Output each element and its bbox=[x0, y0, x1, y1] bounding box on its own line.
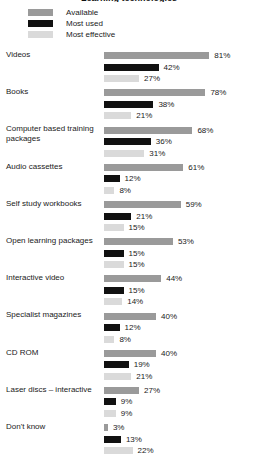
bar bbox=[104, 261, 124, 268]
legend-item-label: Available bbox=[66, 7, 98, 18]
bar-value-label: 8% bbox=[119, 335, 131, 344]
bar bbox=[104, 112, 131, 119]
bar bbox=[104, 447, 133, 454]
bar-value-label: 12% bbox=[125, 323, 141, 332]
bar-group: Self study workbooks59%21%15% bbox=[0, 197, 258, 234]
category-label: Books bbox=[0, 85, 104, 97]
bar-stack: 53%15%15% bbox=[104, 234, 258, 271]
legend-item-label: Most effective bbox=[66, 29, 115, 40]
bar bbox=[104, 75, 139, 82]
bar-value-label: 21% bbox=[136, 212, 152, 221]
bar-group: Videos81%42%27% bbox=[0, 48, 258, 85]
bar-row: 19% bbox=[104, 359, 258, 371]
bar-row: 44% bbox=[104, 273, 258, 285]
bar bbox=[104, 250, 124, 257]
bar bbox=[104, 373, 131, 380]
bar-group: Laser discs – interactive27%9%9% bbox=[0, 383, 258, 420]
bar-value-label: 15% bbox=[129, 223, 145, 232]
bar-stack: 3%13%22% bbox=[104, 420, 258, 457]
bar-stack: 40%19%21% bbox=[104, 346, 258, 383]
chart-legend: AvailableMost usedMost effective bbox=[28, 7, 115, 40]
bar-group: Specialist magazines40%12%8% bbox=[0, 308, 258, 345]
bar-row: 9% bbox=[104, 396, 258, 408]
bar-value-label: 21% bbox=[136, 372, 152, 381]
bar bbox=[104, 424, 108, 431]
bar-row: 21% bbox=[104, 371, 258, 383]
bar-row: 31% bbox=[104, 147, 258, 159]
bar-row: 14% bbox=[104, 296, 258, 308]
bar-group: Books78%38%21% bbox=[0, 85, 258, 122]
bar bbox=[104, 89, 205, 96]
bar bbox=[104, 324, 120, 331]
bar-row: 15% bbox=[104, 247, 258, 259]
bar bbox=[104, 127, 192, 134]
bar bbox=[104, 287, 124, 294]
bar bbox=[104, 187, 114, 194]
bar-row: 27% bbox=[104, 385, 258, 397]
bar-stack: 78%38%21% bbox=[104, 85, 258, 122]
bar bbox=[104, 101, 153, 108]
bar bbox=[104, 238, 173, 245]
bar-stack: 68%36%31% bbox=[104, 122, 258, 159]
bar-value-label: 40% bbox=[161, 312, 177, 321]
legend-swatch-icon bbox=[28, 31, 53, 38]
bar bbox=[104, 138, 151, 145]
category-label: Videos bbox=[0, 48, 104, 60]
bar-value-label: 27% bbox=[144, 74, 160, 83]
bar-row: 40% bbox=[104, 310, 258, 322]
bar-value-label: 9% bbox=[121, 397, 133, 406]
bar-row: 81% bbox=[104, 50, 258, 62]
legend-swatch-icon bbox=[28, 20, 53, 27]
bar-value-label: 3% bbox=[113, 423, 125, 432]
legend-item: Available bbox=[28, 7, 115, 18]
bar-value-label: 40% bbox=[161, 349, 177, 358]
chart-plot-area: Videos81%42%27%Books78%38%21%Computer ba… bbox=[0, 48, 258, 457]
bar-value-label: 81% bbox=[214, 51, 230, 60]
bar-value-label: 78% bbox=[210, 88, 226, 97]
bar-value-label: 22% bbox=[138, 446, 154, 455]
bar-row: 53% bbox=[104, 236, 258, 248]
bar-row: 38% bbox=[104, 99, 258, 111]
bar-row: 36% bbox=[104, 136, 258, 148]
bar-row: 42% bbox=[104, 62, 258, 74]
bar-row: 13% bbox=[104, 433, 258, 445]
bar bbox=[104, 175, 120, 182]
bar bbox=[104, 436, 121, 443]
bar-row: 40% bbox=[104, 348, 258, 360]
bar-value-label: 15% bbox=[129, 260, 145, 269]
bar-value-label: 12% bbox=[125, 174, 141, 183]
bar-stack: 27%9%9% bbox=[104, 383, 258, 420]
bar-group: Computer based training packages68%36%31… bbox=[0, 122, 258, 159]
category-label: Self study workbooks bbox=[0, 197, 104, 209]
bar bbox=[104, 398, 116, 405]
bar-value-label: 44% bbox=[166, 274, 182, 283]
bar bbox=[104, 298, 122, 305]
bar-value-label: 14% bbox=[127, 297, 143, 306]
bar bbox=[104, 64, 159, 71]
bar bbox=[104, 361, 129, 368]
bar-group: Don't know3%13%22% bbox=[0, 420, 258, 457]
bar-value-label: 68% bbox=[197, 126, 213, 135]
category-label: Don't know bbox=[0, 420, 104, 432]
bar-row: 12% bbox=[104, 173, 258, 185]
category-label: Open learning packages bbox=[0, 234, 104, 246]
bar-row: 78% bbox=[104, 87, 258, 99]
bar bbox=[104, 201, 181, 208]
category-label: Specialist magazines bbox=[0, 308, 104, 320]
chart-title: Learning technologies bbox=[0, 0, 258, 2]
bar-value-label: 31% bbox=[149, 149, 165, 158]
bar-value-label: 53% bbox=[178, 237, 194, 246]
bar bbox=[104, 52, 209, 59]
bar-value-label: 42% bbox=[164, 63, 180, 72]
bar-value-label: 13% bbox=[126, 435, 142, 444]
bar-row: 21% bbox=[104, 110, 258, 122]
bar-group: Open learning packages53%15%15% bbox=[0, 234, 258, 271]
legend-item-label: Most used bbox=[66, 18, 103, 29]
category-label: Audio cassettes bbox=[0, 160, 104, 172]
bar-value-label: 8% bbox=[119, 186, 131, 195]
bar-stack: 44%15%14% bbox=[104, 271, 258, 308]
bar bbox=[104, 387, 139, 394]
bar-value-label: 27% bbox=[144, 386, 160, 395]
bar-stack: 40%12%8% bbox=[104, 308, 258, 345]
bar-row: 8% bbox=[104, 333, 258, 345]
